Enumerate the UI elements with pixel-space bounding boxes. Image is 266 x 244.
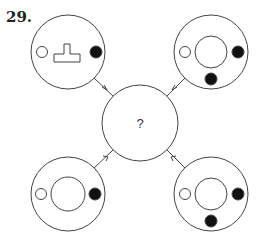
hollow-dot-icon [36,189,47,200]
hollow-dot-icon [180,47,191,58]
figure-bottom-left [31,157,105,231]
inner-ring [195,178,227,210]
arrow-top-right [167,78,185,96]
arrow-top-left [94,78,113,96]
arrow-bottom-left [94,150,113,168]
inner-ring [195,36,227,68]
filled-dot-icon [89,188,101,200]
filled-dot-bottom-icon [205,73,217,85]
figure-bottom-right [174,157,248,231]
puzzle-diagram: ? [0,0,266,244]
filled-dot-icon [232,46,244,58]
figure-top-right [174,15,248,89]
filled-dot-icon [90,46,102,58]
hollow-dot-icon [180,189,191,200]
filled-dot-bottom-icon [205,215,217,227]
question-mark: ? [136,116,143,131]
inner-ring [51,177,85,211]
arrow-bottom-right [167,150,185,168]
filled-dot-icon [232,188,244,200]
t-shape-icon [54,44,80,62]
arrow-head-top-right [172,85,177,90]
hollow-dot-icon [37,47,48,58]
figure-top-left [31,15,105,89]
